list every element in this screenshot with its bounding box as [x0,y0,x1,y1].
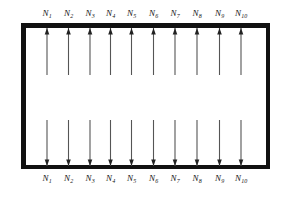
label-subscript: 7 [177,13,180,19]
label-subscript: 5 [133,13,136,19]
label-subscript: 8 [199,13,202,19]
rectangle-frame [23,25,268,167]
label-subscript: 9 [221,178,224,184]
top-label-8: N8 [192,9,201,18]
label-subscript: 7 [177,178,180,184]
top-label-5: N5 [127,9,136,18]
label-subscript: 10 [241,178,247,184]
label-subscript: 1 [49,13,52,19]
bottom-label-9: N9 [215,174,224,183]
label-subscript: 8 [199,178,202,184]
label-subscript: 9 [221,13,224,19]
bottom-label-5: N5 [127,174,136,183]
label-subscript: 4 [112,178,115,184]
bottom-label-8: N8 [192,174,201,183]
label-subscript: 2 [70,13,73,19]
label-subscript: 6 [155,13,158,19]
label-subscript: 6 [155,178,158,184]
top-label-1: N1 [42,9,51,18]
diagram-svg [0,0,285,197]
label-subscript: 1 [49,178,52,184]
label-subscript: 2 [70,178,73,184]
label-subscript: 5 [133,178,136,184]
top-label-7: N7 [170,9,179,18]
label-subscript: 4 [112,13,115,19]
bottom-label-4: N4 [106,174,115,183]
label-subscript: 3 [92,13,95,19]
bottom-label-2: N2 [64,174,73,183]
label-subscript: 3 [92,178,95,184]
bottom-label-1: N1 [42,174,51,183]
figure-canvas: N1N2N3N4N5N6N7N8N9N10 N1N2N3N4N5N6N7N8N9… [0,0,285,197]
bottom-label-7: N7 [170,174,179,183]
bottom-label-3: N3 [85,174,94,183]
top-label-2: N2 [64,9,73,18]
bottom-label-10: N10 [235,174,247,183]
label-subscript: 10 [241,13,247,19]
bottom-label-6: N6 [149,174,158,183]
top-label-10: N10 [235,9,247,18]
top-label-3: N3 [85,9,94,18]
top-label-9: N9 [215,9,224,18]
top-label-6: N6 [149,9,158,18]
top-label-4: N4 [106,9,115,18]
